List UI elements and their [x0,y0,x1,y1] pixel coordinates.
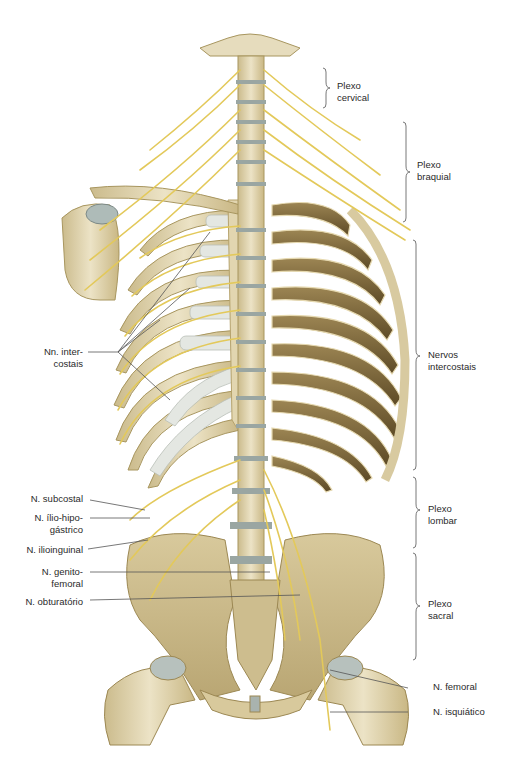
label-nervos-intercostais: Nervos intercostais [428,349,476,372]
label-plexo-sacral: Plexo sacral [428,598,453,621]
label-n-femoral: N. femoral [433,681,477,693]
anatomy-illustration [0,0,513,759]
label-nn-intercostais: Nn. inter- costais [44,346,83,369]
label-plexo-braquial: Plexo braquial [417,159,451,182]
label-n-obturatorio: N. obturatório [25,596,83,608]
label-n-ilio-hipogastrico: N. ílio-hipo- gástrico [34,512,83,535]
label-n-ilioinguinal: N. ilioinguinal [26,544,83,556]
label-plexo-lombar: Plexo lombar [428,503,457,526]
label-plexo-cervical: Plexo cervical [337,80,369,103]
label-n-isquiatico: N. isquiático [433,706,485,718]
label-n-subcostal: N. subcostal [31,493,83,505]
label-n-genitofemoral: N. genito- femoral [42,566,83,589]
